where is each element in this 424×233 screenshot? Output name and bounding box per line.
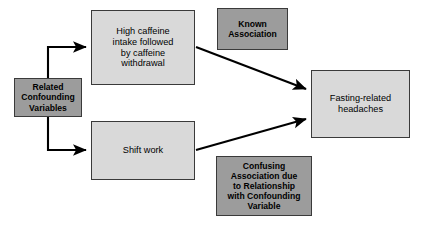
node-fasting-related-headaches: Fasting-related headaches	[311, 70, 410, 138]
confounding-variables-diagram: Related Confounding Variables High caffe…	[0, 0, 424, 233]
arrow-caffeine-to-headaches	[196, 47, 306, 89]
node-label: Shift work	[120, 145, 166, 156]
node-related-confounding-variables: Related Confounding Variables	[14, 78, 82, 117]
node-high-caffeine-intake: High caffeine intake followed by caffein…	[91, 10, 195, 85]
node-label: Known Association	[225, 19, 280, 39]
node-label: Related Confounding Variables	[18, 82, 77, 112]
node-label: High caffeine intake followed by caffein…	[110, 26, 177, 69]
node-known-association: Known Association	[217, 8, 288, 50]
node-confusing-association: Confusing Association due to Relationshi…	[216, 156, 312, 216]
node-label: Confusing Association due to Relationshi…	[224, 161, 303, 212]
arrow-variables-to-shift-work	[48, 117, 86, 150]
arrow-shift-work-to-headaches	[196, 119, 306, 150]
arrow-variables-to-caffeine	[48, 47, 86, 78]
node-shift-work: Shift work	[91, 121, 195, 180]
node-label: Fasting-related headaches	[327, 93, 394, 115]
